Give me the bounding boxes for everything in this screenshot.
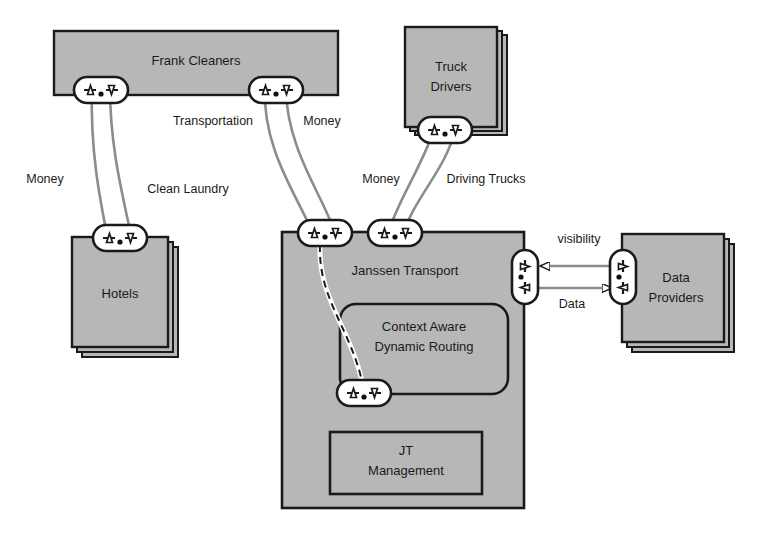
port-hotels-top[interactable] [93, 225, 147, 251]
truck-drivers-label-line2: Drivers [430, 79, 472, 94]
port-janssen-top-right[interactable] [368, 220, 422, 246]
actor-janssen-transport[interactable]: Janssen Transport Context Aware Dynamic … [282, 232, 524, 508]
truck-drivers-body [405, 27, 497, 127]
port-frank-right[interactable] [249, 77, 303, 103]
diagram-canvas: Frank Cleaners Truck Drivers Hotels Data… [0, 0, 771, 543]
hotels-label: Hotels [102, 286, 139, 301]
actor-truck-drivers[interactable]: Truck Drivers [405, 27, 497, 127]
port-janssen-right[interactable] [512, 250, 538, 304]
data-providers-label-line1: Data [662, 270, 690, 285]
value-network-diagram: Frank Cleaners Truck Drivers Hotels Data… [0, 0, 771, 543]
port-frank-left[interactable] [74, 77, 128, 103]
context-aware-dynamic-routing-label-line2: Dynamic Routing [375, 339, 474, 354]
jt-management-label-line1: JT [399, 443, 414, 458]
frank-cleaners-label: Frank Cleaners [152, 53, 241, 68]
label-money-hotels-frank: Money [26, 172, 64, 186]
label-data: Data [559, 297, 585, 311]
context-aware-dynamic-routing-label-line1: Context Aware [382, 319, 466, 334]
label-clean-laundry: Clean Laundry [147, 182, 229, 196]
label-transportation: Transportation [173, 114, 253, 128]
port-providers-left[interactable] [610, 250, 636, 304]
label-visibility: visibility [557, 232, 601, 246]
jt-management-label-line2: Management [368, 463, 444, 478]
data-providers-label-line2: Providers [649, 290, 704, 305]
label-money-frank-janssen: Money [303, 114, 341, 128]
truck-drivers-label-line1: Truck [435, 59, 468, 74]
sub-actor-jt-management[interactable]: JT Management [330, 432, 482, 494]
port-janssen-top-left[interactable] [298, 220, 352, 246]
port-routing-bottom[interactable] [337, 380, 391, 406]
janssen-transport-label: Janssen Transport [352, 263, 459, 278]
actor-hotels[interactable]: Hotels [72, 237, 168, 347]
label-money-janssen-drivers: Money [362, 172, 400, 186]
label-driving-trucks: Driving Trucks [446, 172, 525, 186]
port-drivers-bottom[interactable] [418, 117, 472, 143]
